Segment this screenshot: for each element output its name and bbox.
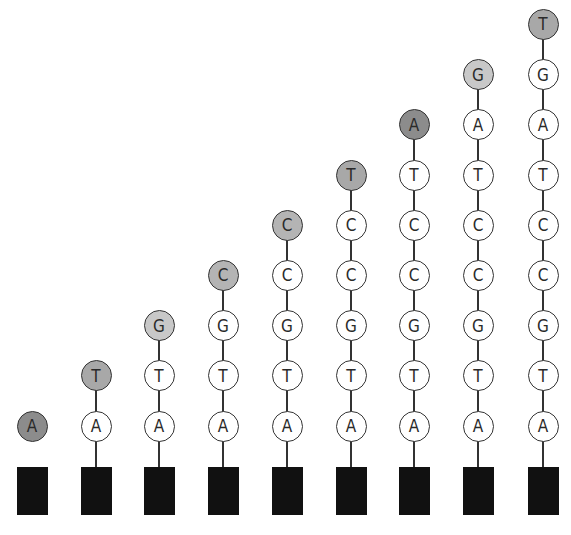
new-nucleotide-C: C	[208, 260, 239, 291]
nucleotide-T: T	[399, 160, 430, 191]
anchor-bead	[17, 467, 48, 515]
nucleotide-A: A	[528, 411, 559, 442]
new-nucleotide-T: T	[336, 160, 367, 191]
nucleotide-T: T	[463, 160, 494, 191]
anchor-bead	[272, 467, 303, 515]
nucleotide-T: T	[208, 360, 239, 391]
nucleotide-C: C	[463, 260, 494, 291]
new-nucleotide-T: T	[81, 360, 112, 391]
nucleotide-C: C	[272, 260, 303, 291]
nucleotide-A: A	[208, 411, 239, 442]
anchor-bead	[336, 467, 367, 515]
backbone-line	[542, 24, 544, 467]
nucleotide-C: C	[336, 210, 367, 241]
nucleotide-C: C	[528, 210, 559, 241]
nucleotide-C: C	[399, 210, 430, 241]
new-nucleotide-C: C	[272, 210, 303, 241]
nucleotide-A: A	[272, 411, 303, 442]
new-nucleotide-A: A	[399, 109, 430, 140]
anchor-bead	[399, 467, 430, 515]
nucleotide-G: G	[399, 310, 430, 341]
nucleotide-T: T	[272, 360, 303, 391]
nucleotide-T: T	[144, 360, 175, 391]
nucleotide-A: A	[399, 411, 430, 442]
nucleotide-A: A	[463, 411, 494, 442]
nucleotide-G: G	[463, 310, 494, 341]
nucleotide-T: T	[528, 360, 559, 391]
nucleotide-G: G	[528, 310, 559, 341]
nucleotide-A: A	[81, 411, 112, 442]
nucleotide-G: G	[208, 310, 239, 341]
nucleotide-T: T	[528, 160, 559, 191]
nucleotide-T: T	[463, 360, 494, 391]
nucleotide-A: A	[144, 411, 175, 442]
new-nucleotide-A: A	[17, 411, 48, 442]
dna-strands-diagram: AATATGATGCATGCCATGCCTATGCCTAATGCCTAGATGC…	[0, 0, 571, 535]
nucleotide-A: A	[463, 109, 494, 140]
anchor-bead	[81, 467, 112, 515]
anchor-bead	[208, 467, 239, 515]
nucleotide-A: A	[336, 411, 367, 442]
nucleotide-A: A	[528, 109, 559, 140]
nucleotide-C: C	[399, 260, 430, 291]
nucleotide-T: T	[336, 360, 367, 391]
anchor-bead	[528, 467, 559, 515]
new-nucleotide-T: T	[528, 9, 559, 40]
nucleotide-G: G	[336, 310, 367, 341]
anchor-bead	[144, 467, 175, 515]
nucleotide-G: G	[528, 59, 559, 90]
nucleotide-C: C	[528, 260, 559, 291]
nucleotide-G: G	[272, 310, 303, 341]
anchor-bead	[463, 467, 494, 515]
new-nucleotide-G: G	[144, 310, 175, 341]
nucleotide-C: C	[463, 210, 494, 241]
nucleotide-C: C	[336, 260, 367, 291]
nucleotide-T: T	[399, 360, 430, 391]
new-nucleotide-G: G	[463, 59, 494, 90]
backbone-line	[158, 326, 160, 467]
